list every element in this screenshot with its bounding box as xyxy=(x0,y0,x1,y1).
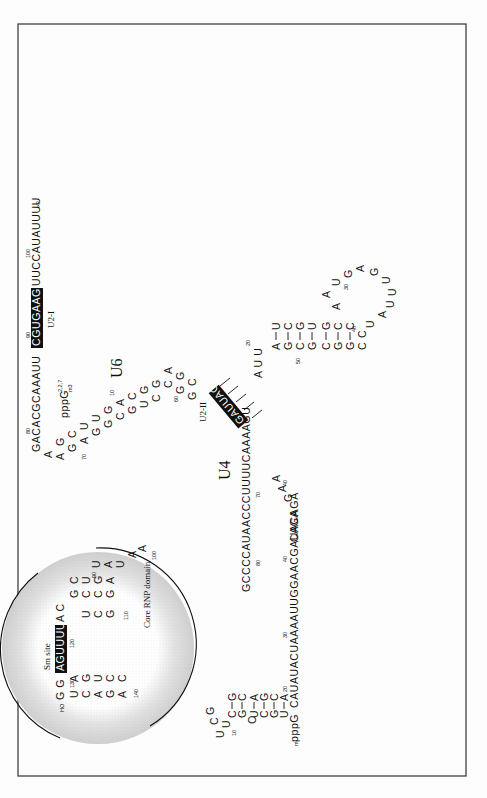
u2-ii-label: U2-II xyxy=(198,402,208,422)
svg-text:G: G xyxy=(344,341,356,350)
svg-text:C: C xyxy=(80,590,92,598)
svg-text:G: G xyxy=(66,443,78,452)
svg-text:G: G xyxy=(104,609,116,618)
svg-text:G G: G G xyxy=(54,679,66,700)
sm-site-label: Sm site xyxy=(42,643,52,670)
svg-text:G: G xyxy=(174,371,186,380)
svg-text:C: C xyxy=(80,690,92,698)
svg-text:G: G xyxy=(282,493,294,502)
u6-3prime-tail: UUCCAUAUUUU xyxy=(30,197,42,286)
u4-label: U4 xyxy=(216,460,233,480)
svg-text:U: U xyxy=(386,288,398,296)
svg-text:A U U: A U U xyxy=(252,348,264,378)
svg-text:G: G xyxy=(332,341,344,350)
svg-text:C: C xyxy=(356,342,368,350)
rna-structure-diagram: Core RNP domain U U C G 10 CG GC C UA CG… xyxy=(0,0,487,798)
svg-text:m3: m3 xyxy=(67,384,73,392)
svg-text:G: G xyxy=(294,321,306,330)
svg-text:C: C xyxy=(104,674,116,682)
svg-text:U: U xyxy=(270,322,282,330)
svg-text:G: G xyxy=(138,385,150,394)
svg-text:G: G xyxy=(150,379,162,388)
svg-text:A: A xyxy=(136,544,148,552)
u4-central-hairpin: A U U 20 50 30 40 AU GC CG GU CG GC GC A… xyxy=(245,264,398,378)
svg-text:C: C xyxy=(116,674,128,682)
svg-text:U: U xyxy=(90,414,102,422)
svg-text:50: 50 xyxy=(295,358,301,364)
svg-text:A: A xyxy=(68,674,80,682)
svg-text:A: A xyxy=(92,690,104,698)
svg-text:10: 10 xyxy=(231,730,237,736)
u4-3prime-strand: GCCCCAUAACCCUUUUCAAAAGU 80 70 xyxy=(240,407,261,592)
svg-text:20: 20 xyxy=(245,340,251,346)
svg-text:2,2,7: 2,2,7 xyxy=(57,380,63,392)
svg-text:A: A xyxy=(104,576,116,584)
svg-text:G: G xyxy=(282,341,294,350)
svg-text:CAGA: CAGA xyxy=(288,510,300,542)
svg-text:C: C xyxy=(186,378,198,386)
svg-text:U: U xyxy=(92,674,104,682)
u6-label: U6 xyxy=(108,358,125,378)
svg-text:G: G xyxy=(368,267,380,276)
svg-text:A: A xyxy=(354,264,366,272)
svg-text:U: U xyxy=(90,560,102,568)
svg-text:U: U xyxy=(114,560,126,568)
u6-3prime-end: >P xyxy=(35,201,41,208)
svg-text:U: U xyxy=(384,300,396,308)
svg-text:C: C xyxy=(66,430,78,438)
svg-text:C: C xyxy=(208,717,220,725)
figure-page: Core RNP domain U U C G 10 CG GC C UA CG… xyxy=(0,0,487,798)
svg-text:100: 100 xyxy=(151,551,157,560)
svg-text:U: U xyxy=(214,730,226,738)
svg-text:60: 60 xyxy=(173,396,179,402)
core-rnp-label: Core RNP domain xyxy=(142,561,152,628)
svg-text:U: U xyxy=(78,422,90,430)
svg-text:120: 120 xyxy=(69,639,75,648)
svg-text:HO: HO xyxy=(59,703,65,712)
svg-text:C: C xyxy=(92,590,104,598)
svg-text:140: 140 xyxy=(133,689,139,698)
svg-text:G: G xyxy=(54,437,66,446)
svg-text:A: A xyxy=(276,484,288,492)
svg-text:G: G xyxy=(102,405,114,414)
svg-text:C: C xyxy=(114,412,126,420)
svg-text:C: C xyxy=(150,394,162,402)
svg-text:U: U xyxy=(330,278,342,286)
svg-text:A: A xyxy=(162,366,174,374)
svg-text:C: C xyxy=(344,322,356,330)
svg-text:U: U xyxy=(364,320,376,328)
svg-text:A C: A C xyxy=(54,603,66,622)
u6-3prime-region: A GACACGCAAAUU 80 pppG m3 2,2,7 90 CGUGA… xyxy=(25,197,73,458)
svg-text:U: U xyxy=(220,720,232,728)
svg-text:C: C xyxy=(162,380,174,388)
u2-ii-sequence: GAUUAG xyxy=(205,382,246,427)
u6-segment-80-90: GACACGCAAAUU xyxy=(30,356,42,452)
svg-text:G: G xyxy=(320,321,332,330)
svg-text:A: A xyxy=(54,452,66,460)
svg-text:C: C xyxy=(320,342,332,350)
svg-text:G: G xyxy=(126,405,138,414)
svg-text:A: A xyxy=(330,302,342,310)
svg-text:U: U xyxy=(80,576,92,584)
svg-text:C: C xyxy=(92,610,104,618)
svg-text:C: C xyxy=(332,322,344,330)
svg-text:G: G xyxy=(92,575,104,584)
svg-text:G: G xyxy=(102,419,114,428)
svg-text:G: G xyxy=(186,391,198,400)
u4-stem3-text: GCCCCAUAACCCUUUUCAAAAGU xyxy=(240,407,252,592)
svg-text:A: A xyxy=(270,474,282,482)
svg-text:A: A xyxy=(78,436,90,444)
svg-text:U: U xyxy=(138,400,150,408)
svg-text:A: A xyxy=(102,560,114,568)
svg-text:G: G xyxy=(174,385,186,394)
svg-text:U: U xyxy=(68,690,80,698)
svg-text:80: 80 xyxy=(25,428,31,434)
svg-text:80: 80 xyxy=(255,560,261,566)
u4-cap: pppG xyxy=(288,714,300,742)
svg-text:U: U xyxy=(380,276,392,284)
svg-text:110: 110 xyxy=(123,611,129,620)
svg-text:G: G xyxy=(90,427,102,436)
svg-text:A: A xyxy=(270,342,282,350)
svg-text:G: G xyxy=(342,269,354,278)
svg-text:G: G xyxy=(68,589,80,598)
